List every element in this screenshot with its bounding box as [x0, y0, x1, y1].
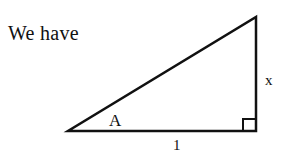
base-label: 1: [173, 137, 181, 154]
triangle-outline: [68, 17, 256, 131]
side-label-x: x: [265, 72, 273, 89]
angle-label: A: [109, 111, 121, 131]
right-angle-marker: [243, 119, 256, 131]
right-triangle-diagram: [0, 0, 281, 162]
